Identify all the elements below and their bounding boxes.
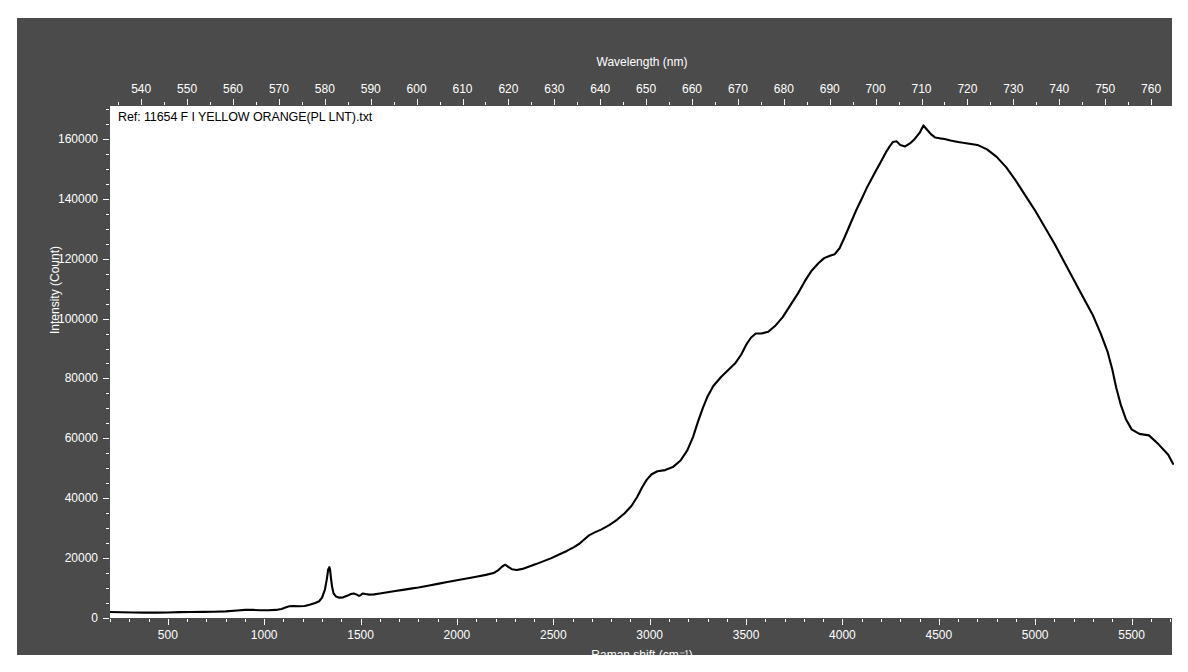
- tick-label: 120000: [50, 252, 98, 266]
- tick-label: 740: [1049, 82, 1069, 96]
- tick-mark: [708, 619, 709, 622]
- tick-mark: [876, 99, 877, 105]
- tick-label: 550: [177, 82, 197, 96]
- tick-mark: [958, 619, 959, 622]
- tick-mark: [103, 618, 109, 619]
- tick-mark: [784, 99, 785, 105]
- tick-label: 60000: [50, 431, 98, 445]
- tick-mark: [554, 99, 555, 105]
- tick-label: 4000: [829, 628, 856, 642]
- tick-mark: [103, 498, 109, 499]
- tick-mark: [823, 619, 824, 622]
- tick-label: 160000: [50, 132, 98, 146]
- tick-label: 5500: [1118, 628, 1145, 642]
- tick-mark: [688, 619, 689, 622]
- tick-mark: [1093, 619, 1094, 622]
- tick-mark: [302, 102, 303, 105]
- tick-mark: [303, 619, 304, 622]
- left-axis-title: Intensity (Count): [48, 210, 62, 370]
- tick-mark: [553, 619, 554, 625]
- tick-label: 40000: [50, 491, 98, 505]
- tick-label: 500: [158, 628, 178, 642]
- tick-mark: [692, 99, 693, 105]
- tick-label: 2000: [444, 628, 471, 642]
- tick-label: 580: [315, 82, 335, 96]
- series-label: Ref: 11654 F I YELLOW ORANGE(PL LNT).txt: [118, 110, 372, 124]
- tick-mark: [187, 619, 188, 622]
- tick-label: 1500: [347, 628, 374, 642]
- tick-mark: [630, 619, 631, 622]
- tick-label: 5000: [1022, 628, 1049, 642]
- tick-mark: [106, 483, 109, 484]
- tick-mark: [106, 408, 109, 409]
- tick-label: 670: [728, 82, 748, 96]
- tick-mark: [1074, 619, 1075, 622]
- tick-mark: [881, 619, 882, 622]
- tick-mark: [830, 99, 831, 105]
- tick-mark: [106, 349, 109, 350]
- tick-mark: [106, 588, 109, 589]
- tick-mark: [440, 102, 441, 105]
- tick-label: 650: [636, 82, 656, 96]
- tick-mark: [977, 619, 978, 622]
- tick-mark: [106, 184, 109, 185]
- tick-mark: [106, 453, 109, 454]
- tick-label: 760: [1141, 82, 1161, 96]
- tick-label: 600: [407, 82, 427, 96]
- tick-mark: [264, 619, 265, 625]
- tick-mark: [103, 378, 109, 379]
- tick-mark: [476, 619, 477, 622]
- tick-mark: [438, 619, 439, 622]
- spectrum-curve: [110, 125, 1173, 612]
- tick-mark: [325, 99, 326, 105]
- tick-label: 2500: [540, 628, 567, 642]
- tick-label: 640: [590, 82, 610, 96]
- tick-mark: [650, 619, 651, 625]
- tick-label: 680: [774, 82, 794, 96]
- tick-mark: [106, 513, 109, 514]
- tick-mark: [746, 619, 747, 625]
- tick-mark: [106, 528, 109, 529]
- tick-label: 750: [1095, 82, 1115, 96]
- tick-mark: [1082, 102, 1083, 105]
- tick-mark: [997, 619, 998, 622]
- tick-label: 730: [1003, 82, 1023, 96]
- tick-label: 620: [498, 82, 518, 96]
- tick-mark: [463, 99, 464, 105]
- tick-mark: [106, 543, 109, 544]
- tick-mark: [106, 603, 109, 604]
- tick-mark: [577, 102, 578, 105]
- tick-mark: [371, 99, 372, 105]
- tick-mark: [245, 619, 246, 622]
- tick-mark: [1035, 619, 1036, 625]
- tick-mark: [785, 619, 786, 622]
- tick-mark: [361, 619, 362, 625]
- tick-mark: [1128, 102, 1129, 105]
- tick-label: 630: [544, 82, 564, 96]
- tick-mark: [256, 102, 257, 105]
- tick-mark: [508, 99, 509, 105]
- spectrum-figure-panel: Wavelength (nm) Raman shift (cm⁻¹) Inten…: [17, 18, 1172, 655]
- tick-mark: [106, 363, 109, 364]
- tick-mark: [106, 304, 109, 305]
- tick-mark: [168, 619, 169, 625]
- screenshot-page: Wavelength (nm) Raman shift (cm⁻¹) Inten…: [0, 0, 1188, 672]
- tick-mark: [1059, 99, 1060, 105]
- tick-mark: [103, 139, 109, 140]
- tick-mark: [233, 99, 234, 105]
- tick-mark: [106, 229, 109, 230]
- tick-label: 560: [223, 82, 243, 96]
- top-axis-title: Wavelength (nm): [110, 55, 1174, 69]
- tick-mark: [110, 619, 111, 622]
- plot-area[interactable]: Ref: 11654 F I YELLOW ORANGE(PL LNT).txt: [110, 106, 1174, 618]
- tick-mark: [226, 619, 227, 622]
- tick-mark: [418, 619, 419, 622]
- tick-mark: [103, 259, 109, 260]
- tick-mark: [380, 619, 381, 622]
- tick-label: 570: [269, 82, 289, 96]
- tick-mark: [394, 102, 395, 105]
- tick-label: 610: [453, 82, 473, 96]
- tick-mark: [727, 619, 728, 622]
- tick-mark: [592, 619, 593, 622]
- tick-mark: [1036, 102, 1037, 105]
